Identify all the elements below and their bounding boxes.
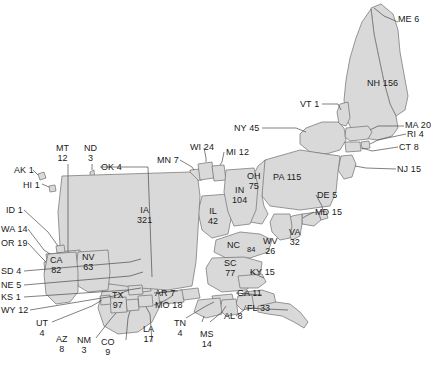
label-wi: WI 24 — [190, 142, 214, 152]
label-al: AL 8 — [224, 311, 243, 321]
label-il: IL 42 — [208, 206, 218, 226]
label-ky: KY 15 — [250, 267, 275, 277]
leader-ny — [262, 128, 306, 132]
label-fl: FL 33 — [247, 303, 270, 313]
label-nc: NC — [227, 240, 240, 250]
label-mn: MN 7 — [157, 155, 179, 165]
label-ms: MS 14 — [200, 329, 214, 349]
label-mi: MI 12 — [226, 147, 249, 157]
label-co: CO 9 — [101, 337, 115, 357]
label-in: IN 104 — [232, 185, 247, 205]
state-ak[interactable] — [38, 172, 46, 180]
label-oh: OH 75 — [247, 171, 261, 191]
label-ne: NE 5 — [1, 280, 21, 290]
label-wa: WA 14 — [1, 224, 28, 234]
label-la: LA 17 — [143, 324, 154, 344]
state-ma[interactable] — [345, 126, 372, 141]
state-shapes — [38, 4, 408, 334]
state-ny[interactable] — [300, 122, 346, 154]
label-mt: MT 12 — [56, 143, 69, 163]
label-va: VA 32 — [289, 227, 301, 247]
label-pa: PA 115 — [273, 172, 301, 182]
state-co[interactable] — [138, 295, 153, 307]
label-nd: ND 3 — [84, 143, 97, 163]
state-nj[interactable] — [338, 155, 356, 179]
label-ut: UT 4 — [36, 318, 48, 338]
label-ks: KS 1 — [1, 292, 21, 302]
label-ct: CT 8 — [399, 142, 419, 152]
label-md: MD 15 — [315, 207, 342, 217]
leader-nj — [355, 166, 396, 169]
label-ak: AK 1 — [14, 165, 34, 175]
state-id[interactable] — [56, 245, 65, 253]
state-mi[interactable] — [212, 165, 226, 181]
state-hi[interactable] — [49, 185, 56, 192]
label-tx: TX 97 — [112, 290, 124, 310]
label-sd: SD 4 — [1, 266, 21, 276]
label-nj: NJ 15 — [397, 164, 421, 174]
leader-hi — [42, 184, 49, 187]
label-mo: MO 18 — [155, 300, 183, 310]
label-de: DE 5 — [317, 190, 337, 200]
state-wi[interactable] — [198, 162, 214, 180]
label-me: ME 6 — [398, 14, 419, 24]
state-la[interactable] — [194, 298, 222, 318]
label-id: ID 1 — [6, 205, 23, 215]
label-wy: WY 12 — [1, 305, 28, 315]
label-nc-value: 84 — [247, 246, 256, 255]
label-wv: WV 26 — [263, 236, 278, 256]
label-hi: HI 1 — [23, 180, 40, 190]
label-ny: NY 45 — [234, 123, 259, 133]
leader-mi — [220, 152, 224, 165]
label-ri: RI 4 — [407, 129, 424, 139]
label-nv: NV 63 — [82, 252, 95, 272]
label-ga: GA 11 — [237, 288, 262, 298]
label-nh: NH 156 — [367, 78, 398, 88]
label-tn: TN 4 — [174, 318, 186, 338]
label-sc: SC 77 — [224, 258, 237, 278]
state-nm[interactable] — [126, 299, 139, 311]
label-vt: VT 1 — [300, 99, 319, 109]
label-nm: NM 3 — [77, 335, 91, 355]
label-ca: CA 82 — [50, 255, 63, 275]
label-az: AZ 8 — [56, 334, 68, 354]
leader-la — [202, 316, 204, 322]
leader-id — [24, 210, 58, 246]
leader-or — [28, 243, 46, 262]
leader-wa — [28, 229, 50, 254]
label-ok: OK 4 — [101, 162, 122, 172]
label-ar: AR 7 — [155, 288, 175, 298]
label-or: OR 19 — [1, 238, 28, 248]
state-ct[interactable] — [345, 142, 361, 152]
label-ia: IA 321 — [137, 205, 152, 225]
leader-mn — [180, 160, 194, 170]
